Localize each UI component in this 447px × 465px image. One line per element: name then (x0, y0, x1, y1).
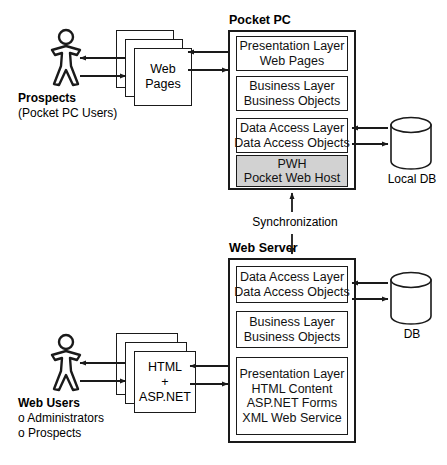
html-line3: ASP.NET (139, 390, 191, 405)
layer-line1: Presentation Layer (240, 367, 345, 382)
prospects-detail: (Pocket PC Users) (18, 106, 117, 121)
html-line2: + (161, 375, 168, 390)
pocketpc-layer-data-access: Data Access Layer Data Access Objects (236, 118, 348, 153)
layer-line1: Data Access Layer (240, 121, 344, 136)
layer-line2: Business Objects (244, 330, 341, 345)
layer-line2: HTML Content (252, 382, 333, 397)
architecture-diagram: Prospects (Pocket PC Users) Web Pages Po… (0, 0, 447, 465)
person-icon (42, 28, 90, 88)
database-cylinder-icon (388, 270, 436, 326)
layer-line1: PWH (277, 157, 306, 172)
card-front-web-pages: Web Pages (134, 48, 192, 106)
web-server-title: Web Server (229, 241, 298, 255)
layer-line1: Business Layer (249, 315, 334, 330)
web-users-name: Web Users (18, 396, 104, 411)
layer-line2: Web Pages (260, 54, 324, 69)
web-pages-line2: Pages (145, 77, 180, 92)
pocketpc-layer-pwh: PWH Pocket Web Host (236, 155, 348, 187)
card-stack-html-aspnet: HTML + ASP.NET (116, 333, 196, 413)
person-icon (42, 333, 90, 393)
server-db-label: DB (382, 327, 442, 341)
person-icon-prospects (42, 28, 90, 92)
database-cylinder-icon-server (388, 270, 436, 330)
layer-line1: Business Layer (249, 79, 334, 94)
local-db-label: Local DB (382, 172, 442, 186)
layer-line1: Data Access Layer (240, 270, 344, 285)
prospects-name: Prospects (18, 91, 117, 106)
web-users-detail-2: o Prospects (18, 426, 104, 441)
pocket-pc-title: Pocket PC (229, 13, 291, 27)
layer-line2: Pocket Web Host (244, 171, 340, 186)
webserver-layer-presentation: Presentation Layer HTML Content ASP.NET … (236, 357, 348, 435)
database-cylinder-icon (388, 115, 436, 171)
database-cylinder-icon-local (388, 115, 436, 175)
layer-line4: XML Web Service (242, 411, 341, 426)
layer-line2: Data Access Objects (234, 285, 349, 300)
card-stack-web-pages: Web Pages (116, 30, 192, 104)
pocketpc-layer-presentation: Presentation Layer Web Pages (236, 36, 348, 71)
layer-line1: Presentation Layer (240, 39, 345, 54)
actor-label-web-users: Web Users o Administrators o Prospects (18, 396, 104, 441)
html-line1: HTML (148, 360, 182, 375)
layer-line3: ASP.NET Forms (247, 396, 338, 411)
webserver-layer-business: Business Layer Business Objects (236, 311, 348, 348)
actor-label-prospects: Prospects (Pocket PC Users) (18, 91, 117, 121)
synchronization-label: Synchronization (228, 215, 362, 229)
webserver-layer-data-access: Data Access Layer Data Access Objects (236, 266, 348, 303)
card-front-html-aspnet: HTML + ASP.NET (134, 351, 196, 413)
web-pages-line1: Web (150, 62, 175, 77)
pocketpc-layer-business: Business Layer Business Objects (236, 76, 348, 111)
layer-line2: Data Access Objects (234, 136, 349, 151)
person-icon-web-users (42, 333, 90, 397)
layer-line2: Business Objects (244, 94, 341, 109)
web-users-detail-1: o Administrators (18, 411, 104, 426)
